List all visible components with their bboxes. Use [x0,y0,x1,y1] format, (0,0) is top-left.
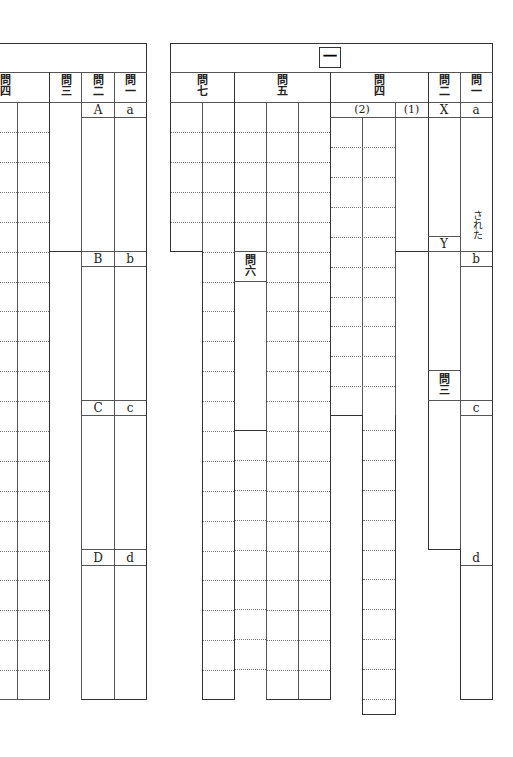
left-q1-label-b: b [114,253,146,265]
dotted-guide-line [267,491,330,492]
right-header-line [170,72,493,73]
right-q4-1-answer-box[interactable] [396,117,428,251]
dotted-guide-line [331,326,395,327]
dotted-guide-line [171,162,202,163]
left-row-line [82,549,146,550]
left-q1-a-answer[interactable] [115,117,146,251]
dotted-guide-line [267,192,330,193]
right-q1-b-answer[interactable] [461,266,492,400]
dotted-guide-line [235,192,266,193]
right-q1-a-answer[interactable] [461,117,492,251]
dotted-guide-line [363,639,395,640]
dotted-guide-line [267,311,330,312]
right-q1-d-answer[interactable] [461,565,492,699]
right-q3-label-top [428,370,460,371]
dotted-guide-line [235,580,266,581]
dotted-guide-line [171,132,202,133]
left-q2-B-answer[interactable] [82,266,114,400]
dotted-guide-line [235,490,266,491]
left-q2-label-B: B [82,253,114,265]
left-q2-C-answer[interactable] [82,415,114,549]
right-q5-bottom [266,699,331,700]
dotted-guide-line [203,222,234,223]
right-q4-2-bottom [362,714,396,715]
left-q4-answer-box[interactable] [0,102,49,699]
dotted-guide-line [267,431,330,432]
right-q3-bottom [428,549,461,550]
section-number-badge: 一 [319,47,341,68]
dotted-guide-line [235,460,266,461]
dotted-guide-line [331,386,395,387]
right-q6-answer-box[interactable] [235,281,266,430]
dotted-guide-line [203,371,234,372]
dotted-guide-line [203,132,234,133]
left-q2-label-A: A [82,104,114,116]
left-q1-b-answer[interactable] [115,266,146,400]
right-q4-header: 問 四 [330,75,428,97]
dotted-guide-line [267,341,330,342]
left-row-line [82,251,146,252]
right-q3-answer-box[interactable] [429,400,460,549]
dotted-guide-line [363,699,395,700]
left-q1-d-answer[interactable] [115,565,146,699]
left-q1-c-answer[interactable] [115,415,146,549]
dotted-guide-line [203,311,234,312]
dotted-guide-line [203,401,234,402]
left-q2-A-answer[interactable] [82,117,114,251]
dotted-guide-line [203,640,234,641]
dotted-guide-line [267,371,330,372]
dotted-guide-line [171,192,202,193]
dotted-guide-line [331,147,395,148]
dotted-guide-line [235,609,266,610]
right-q2-label-X: X [428,104,460,116]
dotted-guide-line [267,252,330,253]
left-header-line [0,72,147,73]
left-q1-label-a: a [114,104,146,116]
dotted-guide-line [331,177,395,178]
left-q2-D-answer[interactable] [82,565,114,699]
left-q3-answer-box[interactable] [50,102,81,251]
left-q1-label-c: c [114,402,146,414]
left-q3-bottom [49,251,82,252]
right-q1-label-b: b [460,253,492,265]
right-q1-bottom [460,699,493,700]
dotted-guide-line [235,669,266,670]
dotted-guide-line [203,610,234,611]
dotted-guide-line [363,579,395,580]
dotted-guide-line [267,282,330,283]
dotted-guide-line [267,162,330,163]
left-row-line [82,400,146,401]
right-q2-X-answer[interactable] [429,117,460,236]
left-q1-label-d: d [114,552,146,564]
dotted-guide-line [203,491,234,492]
dotted-guide-line [235,132,266,133]
dotted-guide-line [331,207,395,208]
dotted-guide-line [235,520,266,521]
left-right-border [146,43,147,699]
left-q2-bottom [81,699,147,700]
dotted-guide-line [235,162,266,163]
right-row-line [428,251,492,252]
dotted-guide-line [171,222,202,223]
dotted-guide-line [363,609,395,610]
dotted-guide-line [203,341,234,342]
right-q1-label-c: c [460,402,492,414]
dotted-guide-line [203,670,234,671]
dotted-guide-line [235,222,266,223]
dotted-guide-line [267,580,330,581]
dotted-guide-line [235,639,266,640]
right-q1-c-answer[interactable] [461,415,492,549]
dotted-guide-line [267,521,330,522]
left-q4-bottom [0,699,50,700]
right-q1-label-a: a [460,104,492,116]
right-q4-2-lower-right [395,415,396,715]
right-q4-sub-2-label: (2) [330,104,394,116]
left-q1-header: 問 一 [114,75,146,97]
dotted-guide-line [203,461,234,462]
dotted-guide-line [267,222,330,223]
left-q4-header: 問 四 [0,75,12,97]
dotted-guide-line [267,551,330,552]
dotted-guide-line [267,132,330,133]
dotted-guide-line [363,460,395,461]
dotted-guide-line [331,237,395,238]
